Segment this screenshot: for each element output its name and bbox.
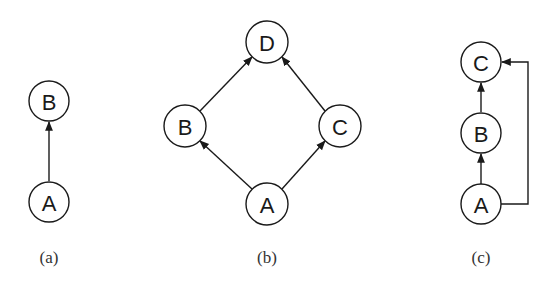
- edge-b-B-to-D: [200, 57, 252, 111]
- node-label: C: [473, 51, 489, 76]
- edge-b-A-to-C: [282, 141, 325, 189]
- node-c-C: C: [461, 42, 501, 82]
- panel-a: B A (a): [29, 81, 69, 267]
- edge-b-C-to-D: [282, 57, 325, 111]
- node-label: C: [332, 115, 348, 140]
- node-label: D: [259, 31, 275, 56]
- caption-b: (b): [257, 248, 277, 267]
- panel-c: C B A (c): [461, 42, 528, 267]
- node-c-B: B: [461, 113, 501, 153]
- node-b-D: D: [246, 21, 288, 63]
- diagram-canvas: B A (a) D B C A (b): [0, 0, 556, 289]
- panel-b: D B C A (b): [164, 21, 361, 267]
- edge-b-A-to-B: [200, 141, 252, 189]
- node-label: B: [42, 90, 57, 115]
- node-label: B: [474, 122, 489, 147]
- node-label: B: [178, 115, 193, 140]
- edge-c-A-to-C: [501, 62, 528, 204]
- node-c-A: A: [461, 184, 501, 224]
- node-label: A: [260, 193, 275, 218]
- node-b-B: B: [164, 105, 206, 147]
- node-label: A: [474, 193, 489, 218]
- caption-c: (c): [472, 248, 491, 267]
- node-b-C: C: [319, 105, 361, 147]
- node-a-B: B: [29, 81, 69, 121]
- node-label: A: [42, 191, 57, 216]
- node-b-A: A: [246, 183, 288, 225]
- caption-a: (a): [40, 248, 59, 267]
- node-a-A: A: [29, 182, 69, 222]
